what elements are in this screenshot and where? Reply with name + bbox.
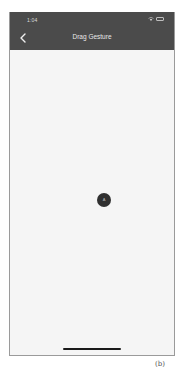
status-icons [148,17,164,21]
figure-caption: (b) [0,360,184,368]
draggable-circle[interactable]: A [97,193,111,207]
phone-screen: 1:04 Drag Gesture A [9,12,175,356]
page-title: Drag Gesture [10,33,174,40]
battery-icon [156,17,164,21]
nav-bar: Drag Gesture [10,28,174,50]
circle-label: A [103,198,106,202]
status-bar: 1:04 [10,12,174,28]
home-indicator[interactable] [63,348,121,350]
drag-area[interactable]: A [10,50,174,355]
wifi-icon [148,17,154,21]
status-time: 1:04 [27,17,38,23]
header: 1:04 Drag Gesture [10,12,174,50]
